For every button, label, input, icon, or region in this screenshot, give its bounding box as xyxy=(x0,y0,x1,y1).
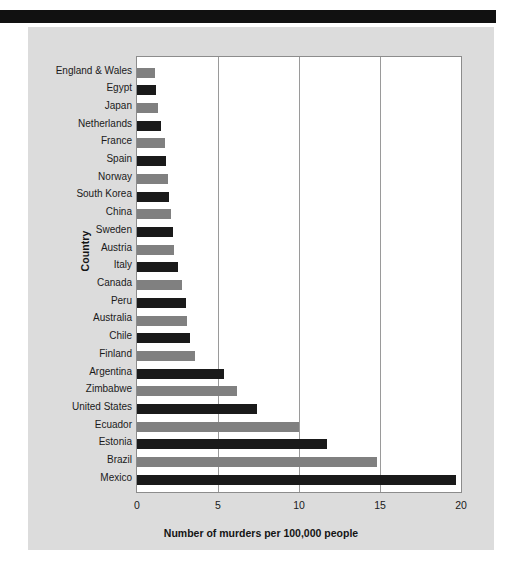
bar-row: Zimbabwe xyxy=(137,382,461,400)
category-label: France xyxy=(101,135,132,146)
category-label: Chile xyxy=(109,330,132,341)
x-tick-label-0: 0 xyxy=(134,499,140,511)
figure-panel: Country England & WalesEgyptJapanNetherl… xyxy=(28,27,494,550)
bar xyxy=(137,351,195,361)
bar xyxy=(137,439,327,449)
bar xyxy=(137,103,158,113)
bar-row: Austria xyxy=(137,240,461,258)
category-label: Egypt xyxy=(106,82,132,93)
category-label: Japan xyxy=(105,100,132,111)
bar xyxy=(137,386,237,396)
bar-row: South Korea xyxy=(137,187,461,205)
x-tick-label-5: 5 xyxy=(215,499,221,511)
bar xyxy=(137,227,173,237)
bar xyxy=(137,156,166,166)
category-label: Canada xyxy=(97,277,132,288)
bar-row: Brazil xyxy=(137,453,461,471)
category-label: United States xyxy=(72,401,132,412)
bar-row: Estonia xyxy=(137,435,461,453)
category-label: Ecuador xyxy=(95,419,132,430)
bar-row: England & Wales xyxy=(137,63,461,81)
category-label: England & Wales xyxy=(56,65,132,76)
category-label: Sweden xyxy=(96,224,132,235)
category-label: South Korea xyxy=(76,188,132,199)
bar xyxy=(137,121,161,131)
category-label: Peru xyxy=(111,295,132,306)
bar xyxy=(137,369,224,379)
category-label: Mexico xyxy=(100,472,132,483)
category-label: Australia xyxy=(93,312,132,323)
category-label: China xyxy=(106,206,132,217)
bar-row: Finland xyxy=(137,346,461,364)
bar xyxy=(137,280,182,290)
bar xyxy=(137,192,169,202)
bar xyxy=(137,85,156,95)
bar xyxy=(137,333,190,343)
bar-row: Chile xyxy=(137,329,461,347)
category-label: Estonia xyxy=(99,436,132,447)
bar-row: Ecuador xyxy=(137,417,461,435)
bar-row: United States xyxy=(137,399,461,417)
bar xyxy=(137,298,186,308)
plot-area: England & WalesEgyptJapanNetherlandsFran… xyxy=(136,56,462,493)
category-label: Finland xyxy=(99,348,132,359)
bar-row: Netherlands xyxy=(137,116,461,134)
x-tick-label-20: 20 xyxy=(455,499,467,511)
bar-row: Sweden xyxy=(137,222,461,240)
category-label: Brazil xyxy=(107,454,132,465)
bar xyxy=(137,245,174,255)
bar xyxy=(137,262,178,272)
category-label: Zimbabwe xyxy=(86,383,132,394)
bar-row: Canada xyxy=(137,276,461,294)
category-label: Norway xyxy=(98,171,132,182)
bar xyxy=(137,174,168,184)
bar-row: Mexico xyxy=(137,470,461,488)
bar-row: Argentina xyxy=(137,364,461,382)
bar-row: France xyxy=(137,134,461,152)
bar xyxy=(137,475,456,485)
bar-row: Norway xyxy=(137,169,461,187)
bar xyxy=(137,316,187,326)
top-black-band xyxy=(0,10,496,23)
category-label: Austria xyxy=(101,242,132,253)
x-axis-title: Number of murders per 100,000 people xyxy=(28,527,494,539)
bar xyxy=(137,422,299,432)
bar-row: Japan xyxy=(137,98,461,116)
bar-row: China xyxy=(137,205,461,223)
bar-row: Australia xyxy=(137,311,461,329)
bar xyxy=(137,457,377,467)
bar xyxy=(137,404,257,414)
category-label: Argentina xyxy=(89,366,132,377)
bar-row: Italy xyxy=(137,258,461,276)
category-label: Italy xyxy=(114,259,132,270)
bar xyxy=(137,68,155,78)
bar-row: Egypt xyxy=(137,81,461,99)
bar xyxy=(137,209,171,219)
category-label: Netherlands xyxy=(78,118,132,129)
category-label: Spain xyxy=(106,153,132,164)
x-tick-label-15: 15 xyxy=(374,499,386,511)
bar-row: Peru xyxy=(137,293,461,311)
bar xyxy=(137,138,165,148)
y-axis-title: Country xyxy=(79,191,91,311)
x-tick-label-10: 10 xyxy=(293,499,305,511)
bar-row: Spain xyxy=(137,152,461,170)
